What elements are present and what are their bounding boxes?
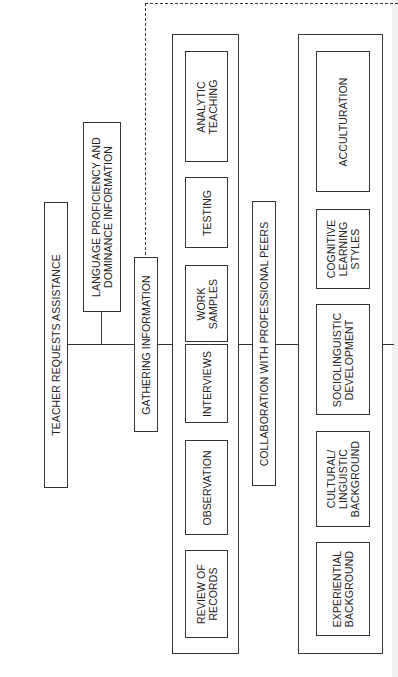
dashed-connector-vertical: [145, 3, 146, 255]
factor-acculturation-box: ACCULTURATION: [316, 51, 370, 192]
page-edge-strip: [392, 0, 398, 677]
collaboration-box: COLLABORATION WITH PROFESSIONAL PEERS: [252, 201, 276, 486]
teacher-requests-assistance-label: TEACHER REQUESTS ASSISTANCE: [50, 254, 62, 436]
collaboration-label: COLLABORATION WITH PROFESSIONAL PEERS: [258, 221, 270, 466]
language-connector-line: [101, 312, 102, 344]
method-analytic-teaching-box: ANALYTIC TEACHING: [185, 51, 228, 162]
gathering-information-box: GATHERING INFORMATION: [134, 257, 158, 432]
method-review-of-records-box: REVIEW OF RECORDS: [185, 550, 228, 638]
factor-cognitive-learning-styles-box: COGNITIVE LEARNING STYLES: [316, 209, 370, 289]
factor-label: EXPERIENTIAL BACKGROUND: [331, 551, 355, 627]
factor-experiential-background-box: EXPERIENTIAL BACKGROUND: [316, 542, 370, 636]
factor-label: SOCIOLINGUISTIC DEVELOPMENT: [331, 312, 355, 406]
factor-label: CULTURAL/ LINGUISTIC BACKGROUND: [325, 441, 361, 517]
method-label: REVIEW OF RECORDS: [195, 564, 219, 624]
language-proficiency-label: LANGUAGE PROFICIENCY AND DOMINANCE INFOR…: [90, 137, 114, 297]
teacher-requests-assistance-box: TEACHER REQUESTS ASSISTANCE: [44, 202, 68, 488]
method-label: TESTING: [201, 189, 213, 235]
language-proficiency-box: LANGUAGE PROFICIENCY AND DOMINANCE INFOR…: [83, 122, 121, 312]
method-label: WORK SAMPLES: [195, 278, 219, 328]
factor-label: ACCULTURATION: [337, 77, 349, 166]
method-interviews-box: INTERVIEWS: [185, 344, 228, 423]
method-work-samples-box: WORK SAMPLES: [185, 265, 228, 342]
method-label: ANALYTIC TEACHING: [195, 79, 219, 134]
method-testing-box: TESTING: [185, 177, 228, 248]
method-observation-box: OBSERVATION: [185, 440, 228, 535]
factor-sociolinguistic-development-box: SOCIOLINGUISTIC DEVELOPMENT: [316, 304, 370, 415]
dashed-connector-horizontal: [145, 3, 398, 4]
factor-label: COGNITIVE LEARNING STYLES: [325, 220, 361, 279]
factor-cultural-linguistic-background-box: CULTURAL/ LINGUISTIC BACKGROUND: [316, 431, 370, 527]
gathering-information-label: GATHERING INFORMATION: [140, 275, 152, 414]
method-label: INTERVIEWS: [201, 350, 213, 416]
method-label: OBSERVATION: [201, 450, 213, 525]
right-connector-line: [382, 344, 394, 345]
